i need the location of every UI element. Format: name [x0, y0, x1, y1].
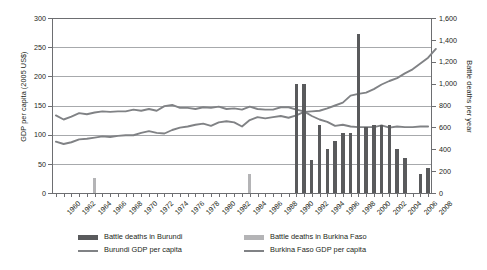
- x-axis-tick-mark: [265, 194, 266, 197]
- x-axis-tick-mark: [71, 194, 72, 197]
- legend-label: Burundi GDP per capita: [104, 245, 182, 254]
- x-axis-tick-mark: [281, 194, 282, 197]
- y-axis-right-tick-mark: [432, 171, 436, 172]
- x-axis-tick-mark: [250, 194, 251, 197]
- x-axis-tick-mark: [133, 194, 134, 197]
- x-axis-tick-mark: [118, 194, 119, 197]
- legend-line-swatch: [78, 250, 98, 252]
- y-axis-left-tick-mark: [48, 106, 52, 107]
- y-axis-left-tick-label: 50: [20, 160, 46, 169]
- x-axis-tick-mark: [219, 194, 220, 197]
- x-axis-tick-mark: [304, 194, 305, 197]
- x-axis-tick-mark: [258, 194, 259, 197]
- legend-label: Burkina Faso GDP per capita: [270, 245, 366, 254]
- chart-container: GDP per capita (2005 US$) Battle deaths …: [0, 0, 487, 270]
- y-axis-right-tick-label: 800: [439, 101, 469, 110]
- y-axis-left-tick-mark: [48, 18, 52, 19]
- x-axis-tick-mark: [374, 194, 375, 197]
- bar: [295, 84, 298, 193]
- x-axis-tick-mark: [164, 194, 165, 197]
- x-axis-tick-mark: [343, 194, 344, 197]
- bar: [395, 149, 398, 193]
- bar: [318, 125, 321, 193]
- x-axis-tick-mark: [56, 194, 57, 197]
- bar: [333, 141, 336, 193]
- x-axis-tick-mark: [351, 194, 352, 197]
- y-axis-left-tick-mark: [48, 164, 52, 165]
- x-axis-tick-mark: [149, 194, 150, 197]
- bar: [380, 125, 383, 193]
- x-axis-tick-mark: [211, 194, 212, 197]
- y-axis-right-tick-mark: [432, 127, 436, 128]
- x-axis-tick-mark: [87, 194, 88, 197]
- x-axis-tick-mark: [141, 194, 142, 197]
- y-axis-right-tick-label: 1,200: [439, 57, 469, 66]
- y-axis-right-tick-label: 600: [439, 123, 469, 132]
- x-axis-tick-mark: [157, 194, 158, 197]
- x-axis-tick-mark: [366, 194, 367, 197]
- x-axis-tick-mark: [382, 194, 383, 197]
- y-axis-left-tick-label: 0: [20, 189, 46, 198]
- x-axis-tick-mark: [110, 194, 111, 197]
- y-axis-right-tick-mark: [432, 193, 436, 194]
- x-axis-tick-mark: [203, 194, 204, 197]
- x-axis-tick-mark: [172, 194, 173, 197]
- bar: [248, 174, 251, 193]
- bar: [388, 125, 391, 193]
- x-axis-tick-mark: [428, 194, 429, 197]
- x-axis-tick-mark: [226, 194, 227, 197]
- bar: [349, 133, 352, 193]
- y-axis-left-tick-mark: [48, 193, 52, 194]
- bar: [372, 125, 375, 193]
- bar: [403, 158, 406, 193]
- y-axis-right-tick-mark: [432, 106, 436, 107]
- y-axis-left-tick-mark: [48, 76, 52, 77]
- x-axis-tick-mark: [126, 194, 127, 197]
- y-axis-right-tick-label: 1,000: [439, 79, 469, 88]
- y-axis-left-tick-label: 250: [20, 43, 46, 52]
- y-axis-right-tick-label: 0: [439, 189, 469, 198]
- x-axis-tick-mark: [180, 194, 181, 197]
- x-axis-tick-mark: [335, 194, 336, 197]
- x-axis-tick-mark: [389, 194, 390, 197]
- legend-label: Battle deaths in Burundi: [104, 232, 182, 241]
- x-axis-tick-mark: [273, 194, 274, 197]
- x-axis-tick-mark: [188, 194, 189, 197]
- bar: [310, 160, 313, 193]
- y-axis-right-tick-label: 1,400: [439, 36, 469, 45]
- legend-line-swatch: [244, 250, 264, 252]
- bar: [426, 168, 429, 193]
- y-axis-right-tick-label: 200: [439, 167, 469, 176]
- y-axis-right-tick-mark: [432, 40, 436, 41]
- x-axis-tick-mark: [242, 194, 243, 197]
- y-axis-left-tick-label: 300: [20, 14, 46, 23]
- x-axis-tick-mark: [420, 194, 421, 197]
- x-axis-tick-mark: [320, 194, 321, 197]
- x-axis-tick-mark: [234, 194, 235, 197]
- legend-label: Battle deaths in Burkina Faso: [270, 232, 367, 241]
- x-axis-tick-mark: [327, 194, 328, 197]
- y-axis-right-tick-label: 400: [439, 145, 469, 154]
- x-axis-tick-mark: [296, 194, 297, 197]
- legend-bar-swatch: [78, 235, 98, 240]
- bar: [93, 178, 96, 193]
- y-axis-left-tick-mark: [48, 135, 52, 136]
- y-axis-right-tick-mark: [432, 18, 436, 19]
- legend-bar-swatch: [244, 235, 264, 240]
- bar: [326, 149, 329, 193]
- y-axis-left-tick-mark: [48, 47, 52, 48]
- bar: [302, 84, 305, 193]
- y-axis-left-tick-label: 100: [20, 130, 46, 139]
- y-axis-right-tick-mark: [432, 84, 436, 85]
- bar: [364, 127, 367, 193]
- bar: [357, 34, 360, 193]
- x-axis-tick-mark: [79, 194, 80, 197]
- y-axis-left-tick-label: 200: [20, 72, 46, 81]
- x-axis-tick-mark: [64, 194, 65, 197]
- bar: [341, 133, 344, 193]
- x-axis-tick-mark: [413, 194, 414, 197]
- x-axis-tick-mark: [358, 194, 359, 197]
- x-axis-tick-mark: [312, 194, 313, 197]
- y-axis-right-tick-label: 1,600: [439, 14, 469, 23]
- x-axis-tick-mark: [102, 194, 103, 197]
